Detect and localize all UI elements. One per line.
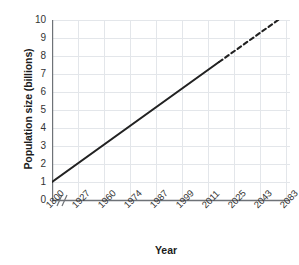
y-tick-label-0: 0 <box>24 195 46 205</box>
y-tick-label-7: 7 <box>24 69 46 79</box>
plot-area <box>52 20 290 200</box>
plot-svg <box>52 20 290 215</box>
horizontal-gridlines <box>52 21 290 183</box>
y-tick-label-4: 4 <box>24 123 46 133</box>
y-tick-label-5: 5 <box>24 105 46 115</box>
y-tick-label-9: 9 <box>24 33 46 43</box>
y-tick-label-3: 3 <box>24 141 46 151</box>
population-growth-chart: Population size (billions) 0 1 2 3 4 5 6… <box>0 0 299 265</box>
y-tick-label-6: 6 <box>24 87 46 97</box>
y-tick-label-10: 10 <box>24 15 46 25</box>
y-tick-label-1: 1 <box>24 177 46 187</box>
y-tick-label-2: 2 <box>24 159 46 169</box>
x-axis-title: Year <box>52 244 280 256</box>
y-tick-label-8: 8 <box>24 51 46 61</box>
series-line-projected <box>219 20 288 62</box>
